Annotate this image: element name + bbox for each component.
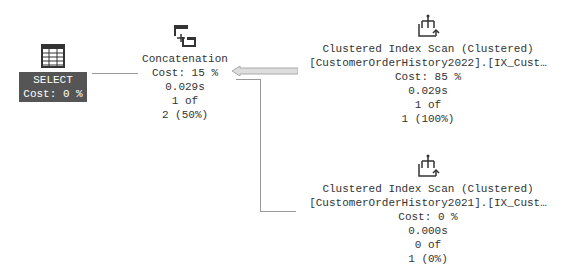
concat-cost: Cost: 15 % [130,66,240,80]
scan1-rows-actual: 1 of [298,98,558,112]
concat-rows-actual: 1 of [130,94,240,108]
select-label: SELECT [23,73,82,87]
clustered-index-scan-icon [416,154,440,178]
scan2-rows-estimated: 1 (0%) [298,252,558,266]
clustered-index-scan-2021-node[interactable]: Clustered Index Scan (Clustered) [Custom… [298,154,558,266]
scan1-label: Clustered Index Scan (Clustered) [298,42,558,56]
select-node[interactable]: SELECT Cost: 0 % [18,44,88,102]
select-label-box: SELECT Cost: 0 % [19,72,86,102]
concat-time: 0.029s [130,80,240,94]
concatenation-node[interactable]: Concatenation Cost: 15 % 0.029s 1 of 2 (… [130,24,240,122]
scan1-rows-estimated: 1 (100%) [298,112,558,126]
scan2-rows-actual: 0 of [298,238,558,252]
concatenation-icon [173,24,197,48]
connector-scan2-h2 [260,211,296,212]
arrow-scan1-to-concat [232,66,298,76]
concat-rows-estimated: 2 (50%) [130,108,240,122]
table-grid-icon [41,44,65,68]
select-cost: Cost: 0 % [23,87,82,101]
scan2-label: Clustered Index Scan (Clustered) [298,182,558,196]
scan2-object: [CustomerOrderHistory2021].[IX_Cust… [298,196,558,210]
clustered-index-scan-icon [416,14,440,38]
connector-scan2-v [260,79,261,211]
clustered-index-scan-2022-node[interactable]: Clustered Index Scan (Clustered) [Custom… [298,14,558,126]
concat-label: Concatenation [130,52,240,66]
scan1-cost: Cost: 85 % [298,70,558,84]
scan2-cost: Cost: 0 % [298,210,558,224]
scan1-time: 0.029s [298,84,558,98]
scan1-object: [CustomerOrderHistory2022].[IX_Cust… [298,56,558,70]
scan2-time: 0.000s [298,224,558,238]
